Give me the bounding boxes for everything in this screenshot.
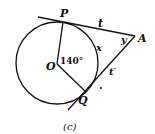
label-t-prime: t′	[109, 66, 117, 77]
label-A: A	[137, 32, 147, 45]
label-P: P	[59, 7, 69, 20]
label-t: t	[98, 17, 103, 30]
figure-caption: (c)	[63, 121, 77, 132]
label-x: x	[95, 42, 103, 53]
circle-tangent-diagram: P t A y x O 140° t′ Q (c)	[0, 0, 155, 134]
geometry-figure: P t A y x O 140° t′ Q (c)	[0, 0, 155, 134]
radius-OQ	[57, 64, 86, 92]
label-Q: Q	[78, 94, 88, 107]
label-central-angle: 140°	[60, 56, 83, 66]
label-y: y	[120, 34, 128, 45]
label-O: O	[46, 60, 56, 73]
dot-mark	[100, 87, 102, 89]
